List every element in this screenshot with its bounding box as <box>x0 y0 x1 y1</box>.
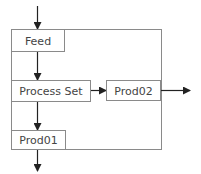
node-prod02: Prod02 <box>107 81 161 101</box>
node-process-set-label: Process Set <box>19 85 83 98</box>
node-prod01: Prod01 <box>12 131 66 150</box>
node-prod01-label: Prod01 <box>19 134 57 147</box>
node-prod02-label: Prod02 <box>114 85 152 98</box>
flowchart-diagram: Feed Process Set Prod02 Prod01 <box>0 0 201 174</box>
node-feed-label: Feed <box>25 35 51 48</box>
node-feed: Feed <box>12 30 65 52</box>
node-process-set: Process Set <box>12 81 91 102</box>
